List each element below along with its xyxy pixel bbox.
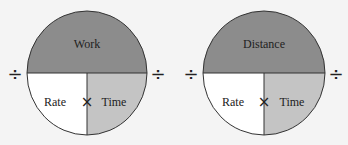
distance-circle: Distance Rate Time × ÷ ÷	[183, 11, 343, 135]
divide-icon: ÷	[150, 63, 165, 84]
multiply-icon: ×	[258, 93, 271, 111]
work-circle: Work Rate Time × ÷ ÷	[7, 11, 165, 135]
divide-icon: ÷	[183, 63, 198, 84]
formula-circles: Work Rate Time × ÷ ÷ Distance Rate Time …	[0, 0, 348, 145]
divide-icon: ÷	[328, 63, 343, 84]
rate-label: Rate	[222, 95, 244, 109]
time-label: Time	[102, 95, 127, 109]
divide-icon: ÷	[7, 63, 22, 84]
rate-label: Rate	[44, 95, 66, 109]
time-label: Time	[280, 95, 305, 109]
multiply-icon: ×	[81, 93, 94, 111]
top-label: Distance	[243, 37, 285, 51]
top-label: Work	[74, 37, 100, 51]
